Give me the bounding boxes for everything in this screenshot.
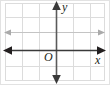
y-axis-label: y: [62, 1, 67, 13]
coordinate-plane-figure: y x O: [0, 0, 110, 85]
x-axis-label: x: [95, 54, 100, 66]
plot-background: [0, 0, 110, 85]
coordinate-plane-graphic: [0, 0, 110, 85]
origin-label: O: [44, 51, 53, 63]
